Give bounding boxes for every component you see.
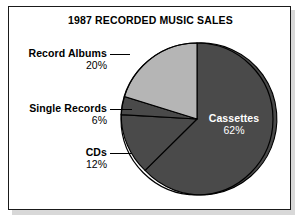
pie-label-cds-name: CDs — [29, 146, 107, 158]
chart-figure-frame: 1987 RECORDED MUSIC SALES Record Albums … — [8, 6, 291, 210]
leader-line-record-albums — [110, 54, 130, 55]
pie-label-record-albums-name: Record Albums — [15, 47, 107, 59]
pie-label-single-records-value: 6% — [11, 114, 107, 126]
pie-label-record-albums-value: 20% — [15, 59, 107, 71]
pie-label-cds: CDs 12% — [29, 146, 107, 170]
pie-label-cassettes-value: 62% — [194, 124, 274, 136]
pie-label-single-records: Single Records 6% — [11, 102, 107, 126]
pie-label-cassettes: Cassettes 62% — [194, 112, 274, 136]
pie-label-cassettes-name: Cassettes — [194, 112, 274, 124]
leader-line-single-records — [110, 109, 132, 110]
pie-label-single-records-name: Single Records — [11, 102, 107, 114]
leader-line-cds — [110, 153, 132, 154]
pie-label-cds-value: 12% — [29, 158, 107, 170]
chart-screenshot: 1987 RECORDED MUSIC SALES Record Albums … — [0, 0, 300, 220]
pie-label-record-albums: Record Albums 20% — [15, 47, 107, 71]
